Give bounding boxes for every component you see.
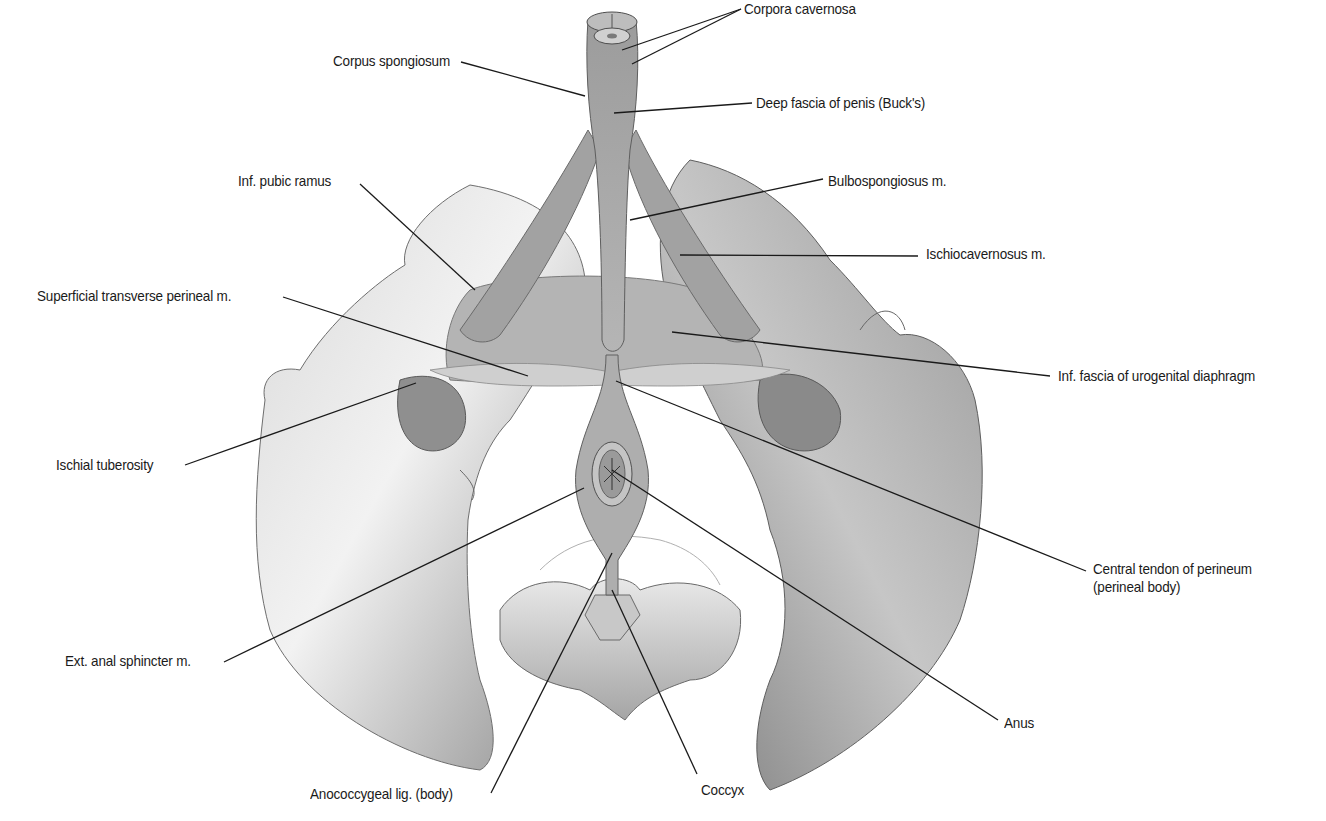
- label-text: Coccyx: [701, 781, 744, 798]
- label-central-tendon-of-perineum: Central tendon of perineum(perineal body…: [1093, 560, 1252, 596]
- label-anococcygeal-lig: Anococcygeal lig. (body): [310, 785, 453, 803]
- label-text: Ischiocavernosus m.: [926, 245, 1046, 262]
- leader-line-corpus-spongiosum: [461, 62, 585, 96]
- label-text: Anus: [1004, 714, 1034, 731]
- label-corpus-spongiosum: Corpus spongiosum: [333, 52, 450, 70]
- label-text: Inf. fascia of urogenital diaphragm: [1058, 367, 1255, 384]
- label-superficial-transverse-perineal: Superficial transverse perineal m.: [37, 287, 231, 305]
- label-bulbospongiosus: Bulbospongiosus m.: [828, 172, 946, 190]
- label-text: Ext. anal sphincter m.: [65, 652, 191, 669]
- perineum-illustration: [0, 0, 1326, 821]
- label-text: Central tendon of perineum: [1093, 560, 1252, 577]
- leader-line-corpora-cavernosa: [622, 9, 741, 50]
- label-deep-fascia-of-penis: Deep fascia of penis (Buck's): [756, 94, 925, 112]
- label-inf-fascia-urogenital-diaphragm: Inf. fascia of urogenital diaphragm: [1058, 367, 1255, 385]
- sacrum-coccyx: [500, 536, 741, 720]
- label-text: Deep fascia of penis (Buck's): [756, 94, 925, 111]
- label-anus: Anus: [1004, 714, 1034, 732]
- leader-line-corpora-cavernosa: [632, 9, 741, 64]
- label-ischiocavernosus: Ischiocavernosus m.: [926, 245, 1046, 263]
- label-text: Corpus spongiosum: [333, 52, 450, 69]
- label-text: Corpora cavernosa: [744, 0, 856, 17]
- label-text: Ischial tuberosity: [56, 456, 153, 473]
- label-text: Bulbospongiosus m.: [828, 172, 946, 189]
- label-coccyx: Coccyx: [701, 781, 744, 799]
- label-corpora-cavernosa: Corpora cavernosa: [744, 0, 856, 18]
- label-text: Superficial transverse perineal m.: [37, 287, 231, 304]
- label-ext-anal-sphincter: Ext. anal sphincter m.: [65, 652, 191, 670]
- label-text-line2: (perineal body): [1093, 578, 1252, 596]
- anal-region: [576, 355, 649, 595]
- label-inf-pubic-ramus: Inf. pubic ramus: [238, 172, 331, 190]
- label-text: Anococcygeal lig. (body): [310, 785, 453, 802]
- label-ischial-tuberosity: Ischial tuberosity: [56, 456, 153, 474]
- label-text: Inf. pubic ramus: [238, 172, 331, 189]
